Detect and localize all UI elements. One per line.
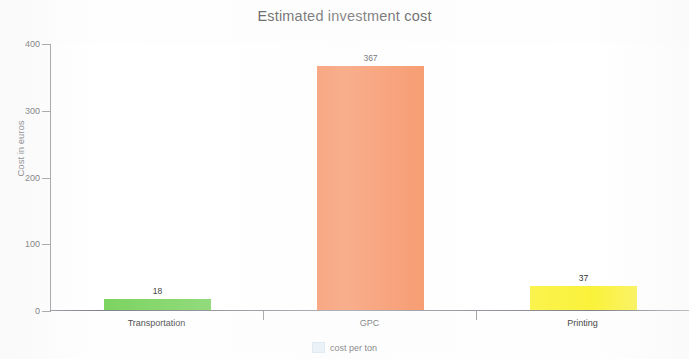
y-tick-label: 300 [8,106,40,116]
y-tick-mark [42,244,51,245]
bar-gpc[interactable] [317,66,424,311]
chart-title: Estimated investment cost [0,8,689,24]
bar-chart: Estimated investment cost 1836737 Cost i… [0,0,689,359]
y-tick-mark [42,111,51,112]
x-category-label: GPC [360,318,380,328]
x-category-label: Transportation [128,318,186,328]
y-axis-title: Cost in euros [15,74,26,224]
bar-value-label: 37 [579,273,588,283]
x-axis-line [50,310,689,311]
y-tick-label: 400 [8,39,40,49]
plot-area: 1836737 [50,44,689,311]
y-tick-label: 0 [8,306,40,316]
y-tick-label: 100 [8,239,40,249]
legend-swatch-icon [312,342,325,353]
x-category-label: Printing [567,318,598,328]
y-tick-mark [42,178,51,179]
x-category-separator-tick [476,311,477,320]
y-tick-mark [42,44,51,45]
y-tick-label: 200 [8,173,40,183]
chart-legend: cost per ton [0,342,689,353]
bar-value-label: 367 [363,53,377,63]
bar-value-label: 18 [153,286,162,296]
legend-label: cost per ton [330,343,377,353]
bar-printing[interactable] [530,286,637,311]
x-category-separator-tick [263,311,264,320]
y-tick-mark [42,311,51,312]
